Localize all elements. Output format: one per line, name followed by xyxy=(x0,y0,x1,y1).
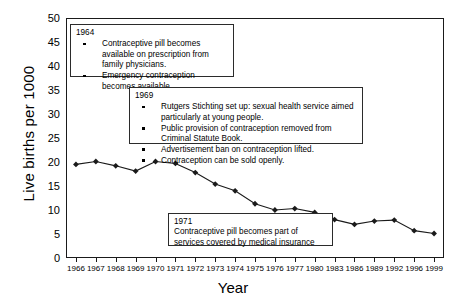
x-tickmark-1973 xyxy=(215,258,216,262)
annotation-1971-year: 1971 xyxy=(174,217,327,227)
annotation-1971-text: Contraceptive pill becomes part of servi… xyxy=(174,227,327,248)
x-tickmark-1969 xyxy=(136,258,137,262)
x-tickmark-1992 xyxy=(394,258,395,262)
x-tickmark-1999 xyxy=(434,258,435,262)
annotation-1964-bullet-0-text: Contraceptive pill becomes available on … xyxy=(102,39,209,69)
y-tick-10: 10 xyxy=(38,205,60,215)
annotation-1969-bullet-3: Contraception can be sold openly. xyxy=(135,156,357,166)
x-tickmark-1980 xyxy=(315,258,316,262)
x-axis-title: Year xyxy=(0,279,466,296)
bullet-icon xyxy=(142,106,145,109)
x-tickmark-1983 xyxy=(335,258,336,262)
annotation-1969-year: 1969 xyxy=(135,91,357,101)
annotation-1964-bullet-0: Contraceptive pill becomes available on … xyxy=(76,39,228,70)
x-tickmark-1971 xyxy=(175,258,176,262)
x-tick-1999: 1999 xyxy=(421,264,447,274)
x-tickmark-1970 xyxy=(156,258,157,262)
y-tick-25: 25 xyxy=(38,133,60,143)
x-tickmark-1975 xyxy=(255,258,256,262)
annotation-1969-bullet-1-text: Public provision of contraception remove… xyxy=(161,124,332,143)
x-tickmark-1976 xyxy=(275,258,276,262)
annotation-1969-bullet-0-text: Rutgers Stichting set up: sexual health … xyxy=(161,102,354,121)
x-tickmark-1977 xyxy=(295,258,296,262)
annotation-1969-bullet-2-text: Advertisement ban on contraception lifte… xyxy=(161,145,314,154)
y-axis-title: Live births per 1000 xyxy=(20,14,37,254)
y-tick-5: 5 xyxy=(38,229,60,239)
x-tickmark-1967 xyxy=(96,258,97,262)
annotation-1964-year: 1964 xyxy=(76,28,228,38)
bullet-icon xyxy=(83,75,86,78)
y-tick-35: 35 xyxy=(38,85,60,95)
x-tickmark-1996 xyxy=(414,258,415,262)
bullet-icon xyxy=(142,127,145,130)
annotation-1969-bullet-0: Rutgers Stichting set up: sexual health … xyxy=(135,102,357,123)
x-tickmark-1989 xyxy=(374,258,375,262)
x-tickmark-1986 xyxy=(354,258,355,262)
y-tick-40: 40 xyxy=(38,61,60,71)
x-tickmark-1972 xyxy=(195,258,196,262)
annotation-1964-bullets: Contraceptive pill becomes available on … xyxy=(76,39,228,92)
y-tick-45: 45 xyxy=(38,37,60,47)
y-tick-15: 15 xyxy=(38,181,60,191)
annotation-1969: 1969 Rutgers Stichting set up: sexual he… xyxy=(129,87,363,144)
y-tick-30: 30 xyxy=(38,109,60,119)
annotation-1969-bullet-3-text: Contraception can be sold openly. xyxy=(161,156,284,165)
annotation-1964: 1964 Contraceptive pill becomes availabl… xyxy=(70,24,234,77)
bullet-icon xyxy=(142,148,145,151)
x-tickmark-1968 xyxy=(116,258,117,262)
y-tick-0: 0 xyxy=(38,253,60,263)
bullet-icon xyxy=(83,43,86,46)
x-tickmark-1974 xyxy=(235,258,236,262)
annotation-1969-bullet-2: Advertisement ban on contraception lifte… xyxy=(135,145,357,155)
bullet-icon xyxy=(142,159,145,162)
chart-container: Live births per 1000 5045403530252015105… xyxy=(0,0,466,301)
y-tick-20: 20 xyxy=(38,157,60,167)
annotation-1969-bullet-1: Public provision of contraception remove… xyxy=(135,124,357,145)
y-tick-50: 50 xyxy=(38,13,60,23)
annotation-1971: 1971 Contraceptive pill becomes part of … xyxy=(168,213,333,246)
annotation-1969-bullets: Rutgers Stichting set up: sexual health … xyxy=(135,102,357,166)
x-tickmark-1966 xyxy=(76,258,77,262)
